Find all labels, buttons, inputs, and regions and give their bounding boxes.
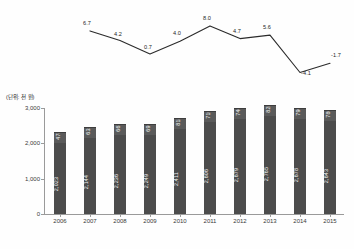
- bar-2012: 2,679746: [234, 109, 246, 214]
- bar-2009: 2,249691: [144, 125, 156, 214]
- line-value-label: -4.1: [301, 71, 311, 77]
- bar-value-main: 2,144: [84, 175, 89, 190]
- x-tick-mark: [210, 214, 211, 217]
- x-tick-mark: [90, 214, 91, 217]
- x-tick-label-2013: 2013: [255, 218, 285, 224]
- bar-value-top: 633: [85, 127, 91, 135]
- x-tick-label-2006: 2006: [45, 218, 75, 224]
- growth-rate-line-chart: 6.74.20.74.08.04.75.6-4.1-1.7: [0, 0, 354, 84]
- bar-2007: 2,144633: [84, 128, 96, 214]
- bar-value-top: 691: [145, 124, 151, 132]
- x-tick-mark: [240, 214, 241, 217]
- bar-segment-main: 2,236: [114, 135, 126, 214]
- x-tick-label-2012: 2012: [225, 218, 255, 224]
- bar-value-main: 2,411: [174, 172, 179, 186]
- bar-segment-main: 2,765: [264, 116, 276, 214]
- x-tick-mark: [330, 214, 331, 217]
- line-value-label: 4.0: [173, 31, 181, 37]
- bar-2013: 2,765828: [264, 106, 276, 214]
- x-tick-label-2009: 2009: [135, 218, 165, 224]
- bar-value-main: 2,643: [324, 168, 329, 183]
- bar-segment-top: 790: [294, 108, 306, 119]
- bar-value-main: 2,679: [234, 168, 239, 183]
- bar-segment-top: 746: [234, 108, 246, 119]
- y-tick-mark: [41, 179, 44, 180]
- bar-2010: 2,411818: [174, 119, 186, 214]
- bar-value-top: 790: [295, 108, 301, 116]
- bar-segment-main: 2,023: [54, 143, 66, 214]
- bar-segment-top: 786: [324, 110, 336, 121]
- bars-plot-area: 2,0234782,1446332,2366672,2496912,411818…: [45, 108, 345, 214]
- bar-2006: 2,023478: [54, 133, 66, 214]
- amount-bar-chart: (단위: 천 원) 01,0002,0003,000 2,0234782,144…: [0, 84, 354, 249]
- line-value-label: 0.7: [144, 45, 152, 51]
- bar-value-main: 2,236: [114, 174, 119, 189]
- x-tick-mark: [60, 214, 61, 217]
- x-tick-label-2008: 2008: [105, 218, 135, 224]
- x-tick-label-2007: 2007: [75, 218, 105, 224]
- x-tick-mark: [180, 214, 181, 217]
- bar-value-main: 2,678: [294, 168, 299, 183]
- bar-segment-top: 478: [54, 132, 66, 143]
- line-value-label: 4.2: [114, 32, 122, 38]
- y-tick-mark: [41, 108, 44, 109]
- bar-value-top: 746: [235, 108, 241, 116]
- bar-segment-top: 828: [264, 105, 276, 116]
- bar-segment-top: 691: [144, 124, 156, 135]
- bar-segment-main: 2,678: [294, 119, 306, 214]
- growth-rate-polyline: [90, 26, 330, 73]
- line-value-label: -1.7: [331, 53, 341, 59]
- y-axis-ticks: 01,0002,0003,000: [0, 108, 40, 214]
- bar-segment-main: 2,679: [234, 119, 246, 214]
- x-tick-label-2010: 2010: [165, 218, 195, 224]
- bar-value-main: 2,023: [54, 177, 59, 192]
- bar-2008: 2,236667: [114, 125, 126, 214]
- bar-segment-main: 2,249: [144, 135, 156, 214]
- bar-value-main: 2,765: [264, 167, 269, 182]
- y-tick-mark: [41, 143, 44, 144]
- x-tick-mark: [270, 214, 271, 217]
- bar-value-main: 2,249: [144, 174, 149, 189]
- x-tick-label-2014: 2014: [285, 218, 315, 224]
- bar-segment-top: 667: [114, 124, 126, 135]
- bar-value-main: 2,606: [204, 169, 209, 184]
- bar-segment-main: 2,606: [204, 122, 216, 214]
- bar-value-top: 828: [265, 105, 271, 113]
- bar-2015: 2,643786: [324, 111, 336, 214]
- bar-value-top: 710: [205, 111, 211, 119]
- x-tick-mark: [150, 214, 151, 217]
- x-tick-label-2011: 2011: [195, 218, 225, 224]
- x-tick-mark: [120, 214, 121, 217]
- bar-value-top: 478: [55, 132, 61, 140]
- y-tick-mark: [41, 214, 44, 215]
- bar-2014: 2,678790: [294, 109, 306, 214]
- bar-value-top: 818: [175, 118, 181, 126]
- line-value-label: 5.6: [263, 25, 271, 31]
- line-value-label: 6.7: [83, 21, 91, 27]
- bar-value-top: 786: [325, 110, 331, 118]
- x-tick-label-2015: 2015: [315, 218, 345, 224]
- x-axis-line: [44, 214, 344, 215]
- bar-value-top: 667: [115, 124, 121, 132]
- bar-segment-top: 818: [174, 118, 186, 129]
- bar-segment-main: 2,144: [84, 138, 96, 214]
- unit-label: (단위: 천 원): [6, 93, 34, 101]
- bar-segment-top: 710: [204, 111, 216, 122]
- line-value-label: 8.0: [203, 16, 211, 22]
- line-value-label: 4.7: [233, 29, 241, 35]
- y-tick-label: 1,000: [6, 175, 40, 181]
- chart-figure: 6.74.20.74.08.04.75.6-4.1-1.7 (단위: 천 원) …: [0, 0, 354, 249]
- y-tick-label: 2,000: [6, 140, 40, 146]
- bar-segment-main: 2,643: [324, 121, 336, 214]
- bar-2011: 2,606710: [204, 112, 216, 214]
- x-tick-mark: [300, 214, 301, 217]
- bar-segment-main: 2,411: [174, 129, 186, 214]
- bar-segment-top: 633: [84, 127, 96, 138]
- y-tick-label: 0: [6, 211, 40, 217]
- y-tick-label: 3,000: [6, 105, 40, 111]
